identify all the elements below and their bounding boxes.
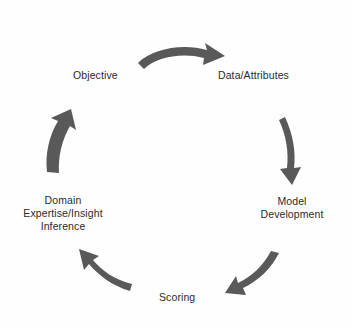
arrow-objective-to-data-icon	[138, 43, 225, 69]
arrow-model-to-scoring-icon	[225, 251, 279, 295]
stage-label-domain-expertise: Domain Expertise/Insight Inference	[13, 194, 113, 233]
stage-label-objective: Objective	[73, 69, 118, 82]
stage-label-scoring: Scoring	[159, 291, 195, 304]
arrow-domain-to-objective-icon	[46, 109, 76, 173]
arrow-scoring-to-domain-icon	[79, 249, 132, 291]
cycle-arrows-group	[0, 0, 351, 327]
stage-label-data-attributes: Data/Attributes	[218, 69, 289, 82]
process-cycle-diagram: Objective Data/Attributes Model Developm…	[0, 0, 351, 327]
arrow-data-to-model-icon	[279, 117, 301, 185]
stage-label-model-development: Model Development	[250, 195, 334, 221]
